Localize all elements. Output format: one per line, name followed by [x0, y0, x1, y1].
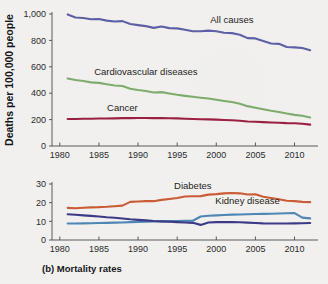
- mortality-rates-figure: 02004006008001,0001980198519901995200020…: [0, 0, 328, 284]
- axis-spines-top: [52, 12, 318, 146]
- y-tick-label-bottom-1: 10: [36, 217, 46, 227]
- x-tick-label-top-0: 1980: [50, 150, 70, 160]
- x-tick-label-bottom-6: 2010: [285, 244, 305, 254]
- y-tick-label-top-2: 400: [31, 88, 46, 98]
- y-tick-label-top-3: 600: [31, 62, 46, 72]
- series-label-kidney-disease: Kidney disease: [215, 195, 279, 206]
- series-label-diabetes: Diabetes: [174, 180, 212, 191]
- y-tick-label-top-5: 1,000: [23, 9, 46, 19]
- x-tick-label-bottom-0: 1980: [50, 244, 70, 254]
- y-tick-label-top-1: 200: [31, 115, 46, 125]
- series-label-all-causes: All causes: [210, 14, 254, 25]
- series-line-all-causes: [68, 14, 311, 50]
- series-label-cardiovascular-diseases: Cardiovascular diseases: [94, 66, 198, 77]
- x-tick-label-top-4: 2000: [206, 150, 226, 160]
- x-tick-label-bottom-1: 1985: [89, 244, 109, 254]
- y-tick-label-bottom-2: 20: [36, 198, 46, 208]
- series-line-cancer: [68, 118, 311, 125]
- y-axis-title: Deaths per 100,000 people: [3, 14, 15, 146]
- x-tick-label-top-2: 1990: [128, 150, 148, 160]
- x-tick-label-bottom-2: 1990: [128, 244, 148, 254]
- x-tick-label-top-6: 2010: [285, 150, 305, 160]
- mortality-charts-svg: 02004006008001,0001980198519901995200020…: [0, 0, 328, 284]
- figure-caption: (b) Mortality rates: [42, 263, 122, 274]
- x-tick-label-bottom-4: 2000: [206, 244, 226, 254]
- panel-bottom: 01020301980198519901995200020052010Diabe…: [36, 179, 318, 254]
- axis-spines-bottom: [52, 182, 318, 240]
- y-tick-label-top-0: 0: [41, 141, 46, 151]
- x-tick-label-top-1: 1985: [89, 150, 109, 160]
- x-tick-label-bottom-5: 2005: [245, 244, 265, 254]
- x-tick-label-top-5: 2005: [245, 150, 265, 160]
- y-tick-label-bottom-3: 30: [36, 179, 46, 189]
- x-tick-label-bottom-3: 1995: [167, 244, 187, 254]
- y-tick-label-bottom-0: 0: [41, 235, 46, 245]
- y-tick-label-top-4: 800: [31, 36, 46, 46]
- x-tick-label-top-3: 1995: [167, 150, 187, 160]
- series-line-cardiovascular-diseases: [68, 78, 311, 117]
- series-label-cancer: Cancer: [107, 102, 138, 113]
- panel-top: 02004006008001,0001980198519901995200020…: [23, 9, 318, 160]
